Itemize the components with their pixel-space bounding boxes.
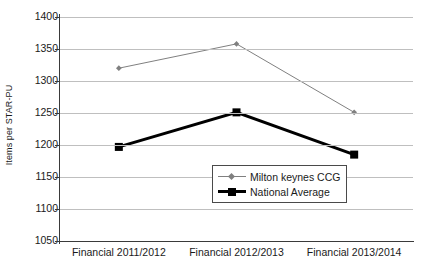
y-axis-tickmark bbox=[55, 49, 60, 50]
x-axis-line bbox=[59, 241, 414, 242]
data-point bbox=[350, 151, 358, 159]
gridline bbox=[60, 209, 413, 210]
series-markers-national-average bbox=[115, 108, 358, 158]
y-axis-tickmark bbox=[55, 113, 60, 114]
y-axis-tickmark bbox=[55, 81, 60, 82]
y-axis-tick-label: 1100 bbox=[18, 203, 58, 214]
y-axis-tick-labels: 14001350130012501200115011001050 bbox=[14, 0, 58, 271]
y-axis-tick-label: 1250 bbox=[18, 107, 58, 118]
gridline bbox=[60, 81, 413, 82]
gridline bbox=[60, 17, 413, 18]
series-line-national-average bbox=[119, 112, 354, 154]
x-axis-tick-label: Financial 2012/2013 bbox=[189, 246, 284, 258]
legend-item-national-average: National Average bbox=[217, 184, 340, 199]
y-axis-tick-label: 1200 bbox=[18, 139, 58, 150]
legend-swatch-grey-diamond-icon bbox=[217, 170, 247, 183]
y-axis-tick-label: 1400 bbox=[18, 11, 58, 22]
y-axis-tick-label: 1300 bbox=[18, 75, 58, 86]
x-axis-tick-labels: Financial 2011/2012Financial 2012/2013Fi… bbox=[60, 246, 413, 266]
y-axis-tick-label: 1150 bbox=[18, 171, 58, 182]
y-axis-tickmark bbox=[55, 17, 60, 18]
data-point bbox=[116, 65, 122, 71]
x-axis-tick-label: Financial 2013/2014 bbox=[307, 246, 402, 258]
y-axis-tickmark bbox=[55, 145, 60, 146]
y-axis-tickmark bbox=[55, 177, 60, 178]
gridline bbox=[60, 49, 413, 50]
series-layer bbox=[60, 17, 413, 241]
y-axis-tick-label: 1050 bbox=[18, 235, 58, 246]
legend-swatch-black-square-icon bbox=[217, 185, 247, 198]
series-line-milton-keynes-ccg bbox=[119, 44, 354, 112]
x-axis-tick-label: Financial 2011/2012 bbox=[72, 246, 166, 258]
gridline bbox=[60, 145, 413, 146]
line-chart: Items per STAR-PU 1400135013001250120011… bbox=[0, 0, 426, 271]
gridline bbox=[60, 113, 413, 114]
legend-label: Milton keynes CCG bbox=[247, 171, 340, 183]
y-axis-tick-label: 1350 bbox=[18, 43, 58, 54]
y-axis-tickmark bbox=[55, 241, 60, 242]
series-markers-milton-keynes-ccg bbox=[116, 41, 357, 115]
legend-item-milton-keynes-ccg: Milton keynes CCG bbox=[217, 169, 340, 184]
y-axis-tickmark bbox=[55, 209, 60, 210]
y-axis-title-label: Items per STAR-PU bbox=[4, 85, 14, 166]
legend-label: National Average bbox=[247, 186, 330, 198]
plot-area bbox=[60, 17, 413, 241]
data-point bbox=[234, 41, 240, 47]
chart-legend: Milton keynes CCG National Average bbox=[212, 165, 347, 203]
